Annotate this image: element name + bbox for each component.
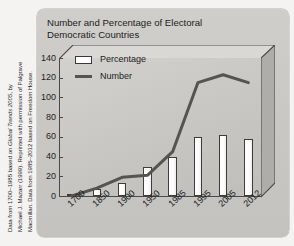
y-tick-label: 40 bbox=[37, 152, 56, 161]
x-axis: 17001850190019501985199520052012 bbox=[59, 197, 275, 237]
number-line-path bbox=[72, 75, 249, 196]
chart-title-line-2: Democratic Countries bbox=[47, 29, 279, 41]
chart-card: Number and Percentage of Electoral Democ… bbox=[37, 9, 289, 237]
y-tick-label: 140 bbox=[37, 54, 56, 63]
chart-title: Number and Percentage of Electoral Democ… bbox=[47, 17, 279, 40]
y-tick-label: 0 bbox=[37, 192, 56, 201]
y-tick-label: 60 bbox=[37, 132, 56, 141]
y-tick-label: 80 bbox=[37, 113, 56, 122]
plot-right-face bbox=[261, 45, 275, 210]
plot-area: 020406080100120140 Percentage Number 170… bbox=[59, 45, 275, 210]
credit-line-3: Macmillan. Data from 1985–2012 based on … bbox=[27, 71, 33, 232]
y-tick-label: 100 bbox=[37, 93, 56, 102]
credit-line-1: Data from 1700–1985 based on Global Tren… bbox=[7, 84, 13, 232]
credit-line-2: Michael J. Mazarr (1999). Reprinted with… bbox=[17, 62, 23, 232]
chart-title-line-1: Number and Percentage of Electoral bbox=[47, 17, 202, 28]
figure-root: Data from 1700–1985 based on Global Tren… bbox=[0, 0, 294, 246]
source-credit: Data from 1700–1985 based on Global Tren… bbox=[0, 0, 36, 246]
line-series-number bbox=[59, 58, 261, 198]
y-tick-label: 20 bbox=[37, 172, 56, 181]
y-tick-label: 120 bbox=[37, 73, 56, 82]
